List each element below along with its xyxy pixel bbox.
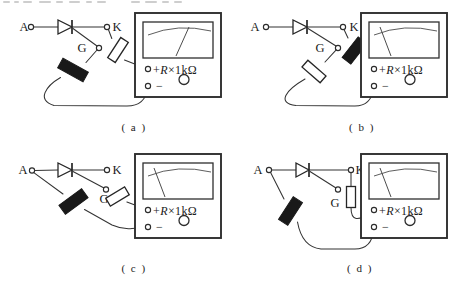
thyristor-b: A K G (250, 20, 358, 55)
cathode-label: K (112, 20, 121, 34)
black-probe-lead-c (34, 173, 146, 229)
meter-range-label: +R×1kΩ (153, 63, 197, 77)
white-probe (106, 187, 129, 206)
meter-knob (179, 75, 189, 85)
wire (44, 78, 147, 107)
panel-grid: A K G (0, 0, 451, 282)
gate-wire (310, 172, 336, 189)
meter-knob (405, 75, 415, 85)
meter-minus-label: − (382, 220, 389, 234)
meter-negative-jack (145, 224, 150, 229)
anode-terminal-dot (28, 24, 33, 29)
wire (86, 50, 97, 63)
anode-label: A (19, 20, 28, 34)
panel-d: A K G (226, 141, 451, 282)
cathode-label: K (349, 20, 358, 34)
white-probe (346, 187, 355, 208)
black-probe (58, 58, 89, 82)
wire (108, 29, 112, 38)
panel-caption: ( c ) (121, 262, 146, 275)
meter-positive-jack (371, 207, 376, 212)
panel-caption: ( b ) (349, 121, 375, 134)
anode-label: A (250, 20, 259, 34)
circuit-a-svg: A K G (0, 0, 226, 141)
meter-knob (405, 216, 415, 226)
anode-label: A (253, 163, 262, 177)
circuit-c-svg: A K G (0, 141, 226, 282)
meter-range-label: +R×1kΩ (153, 204, 197, 218)
meter-range-label: +R×1kΩ (379, 63, 423, 77)
panel-caption: ( a ) (121, 121, 146, 134)
meter-negative-jack (145, 83, 150, 88)
wire (344, 30, 348, 39)
meter-negative-jack (371, 83, 376, 88)
meter-display (369, 163, 439, 199)
black-probe-lead-a (44, 50, 147, 106)
meter-display (369, 22, 439, 58)
meter-minus-label: − (156, 79, 163, 93)
multimeter-d: +R×1kΩ − (361, 154, 447, 238)
gate-label: G (77, 41, 86, 55)
multimeter-a: +R×1kΩ − (135, 13, 221, 97)
multimeter-b: +R×1kΩ − (361, 13, 447, 97)
diode-triangle-icon (58, 20, 72, 34)
panel-caption: ( d ) (347, 262, 373, 275)
meter-positive-jack (371, 66, 376, 71)
gate-label: G (330, 196, 339, 210)
gate-terminal-dot (335, 187, 340, 192)
cathode-terminal-dot (104, 24, 109, 29)
panel-c: A K G (0, 141, 226, 282)
meter-range-label: +R×1kΩ (379, 204, 423, 218)
cathode-label: K (112, 163, 121, 177)
cathode-terminal-dot (340, 24, 345, 29)
meter-negative-jack (371, 224, 376, 229)
diode-triangle-icon (296, 163, 309, 177)
thyristor-test-figure: A K G (0, 0, 451, 282)
diode-triangle-icon (293, 20, 307, 34)
black-probe-lead-d (270, 173, 373, 250)
wire (270, 173, 283, 200)
meter-minus-label: − (382, 79, 389, 93)
cathode-terminal-dot (348, 167, 353, 172)
gate-label: G (315, 41, 324, 55)
circuit-b-svg: A K G (226, 0, 451, 141)
cathode-terminal-dot (104, 167, 109, 172)
diode-triangle-icon (58, 163, 72, 177)
panel-b: A K G (226, 0, 451, 141)
meter-display (143, 163, 213, 199)
meter-minus-label: − (156, 220, 163, 234)
thyristor-a: A K G (19, 20, 121, 55)
wire (325, 50, 336, 62)
panel-a: A K G (0, 0, 226, 141)
gate-wire (73, 172, 104, 189)
meter-positive-jack (145, 66, 150, 71)
meter-positive-jack (145, 207, 150, 212)
anode-terminal-dot (263, 24, 268, 29)
anode-terminal-dot (266, 167, 271, 172)
anode-label: A (18, 163, 27, 177)
black-probe (278, 197, 302, 226)
black-probe (59, 189, 88, 214)
white-probe (108, 37, 129, 62)
multimeter-c: +R×1kΩ − (135, 154, 221, 238)
meter-knob (179, 216, 189, 226)
circuit-d-svg: A K G (226, 141, 451, 282)
white-probe (301, 60, 325, 83)
